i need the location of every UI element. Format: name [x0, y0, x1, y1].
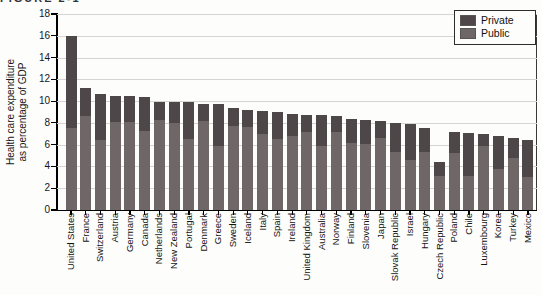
- bar-iceland: [242, 110, 253, 210]
- y-tick-10: [51, 101, 56, 102]
- bar-united-kingdom: [301, 115, 312, 210]
- bar-public-segment: [183, 139, 194, 210]
- bar-public-segment: [522, 177, 533, 210]
- bar-private-segment: [228, 108, 239, 127]
- y-tick-0: [51, 209, 56, 210]
- bar-private-segment: [508, 138, 519, 158]
- bar-austria: [110, 96, 121, 210]
- bar-public-segment: [124, 122, 135, 210]
- bar-finland: [346, 119, 357, 210]
- bar-private-segment: [346, 119, 357, 143]
- y-tick-label-14: 14: [22, 53, 50, 63]
- bar-public-segment: [478, 146, 489, 210]
- y-tick-label-6: 6: [22, 140, 50, 150]
- bar-private-segment: [124, 96, 135, 122]
- bar-sweden: [228, 108, 239, 210]
- bar-private-segment: [360, 120, 371, 144]
- x-tick-label-germany: Germany: [124, 213, 136, 291]
- x-tick-label-turkey: Turkey: [507, 213, 519, 291]
- bar-public-segment: [301, 132, 312, 210]
- bar-public-segment: [80, 116, 91, 210]
- x-tick-label-new-zealand: New Zealand: [168, 213, 180, 291]
- y-tick-label-12: 12: [22, 74, 50, 84]
- bar-mexico: [522, 140, 533, 210]
- y-tick-12: [51, 79, 56, 80]
- y-tick-4: [51, 166, 56, 167]
- x-tick-label-united-states: United States: [65, 213, 77, 291]
- bar-netherlands: [154, 102, 165, 210]
- bar-private-segment: [390, 123, 401, 152]
- bar-chile: [463, 133, 474, 210]
- x-tick-label-greece: Greece: [212, 213, 224, 291]
- bar-public-segment: [95, 140, 106, 210]
- bar-private-segment: [183, 102, 194, 139]
- bar-public-segment: [405, 160, 416, 210]
- legend-swatch-public: [460, 28, 476, 39]
- bar-united-states: [66, 36, 77, 210]
- bar-private-segment: [169, 102, 180, 123]
- x-tick-label-france: France: [80, 213, 92, 291]
- y-tick-18: [51, 13, 56, 14]
- bar-public-segment: [360, 144, 371, 210]
- legend-label-public: Public: [481, 28, 510, 39]
- bar-slovak-republic: [390, 123, 401, 210]
- y-tick-14: [51, 57, 56, 58]
- bar-norway: [331, 116, 342, 210]
- y-tick-8: [51, 122, 56, 123]
- bar-israel: [405, 124, 416, 210]
- bar-private-segment: [213, 104, 224, 145]
- y-tick-label-18: 18: [22, 9, 50, 19]
- y-tick-2: [51, 188, 56, 189]
- bar-private-segment: [242, 110, 253, 127]
- legend-item-public: Public: [460, 27, 535, 40]
- gridline-14: [57, 58, 537, 59]
- bar-public-segment: [316, 146, 327, 210]
- bar-greece: [213, 104, 224, 210]
- x-tick-label-austria: Austria: [109, 213, 121, 291]
- y-tick-label-10: 10: [22, 96, 50, 106]
- bar-private-segment: [375, 121, 386, 138]
- x-tick-label-italy: Italy: [257, 213, 269, 291]
- bar-private-segment: [449, 132, 460, 154]
- bar-public-segment: [390, 152, 401, 210]
- y-tick-label-16: 16: [22, 31, 50, 41]
- x-tick-label-hungary: Hungary: [419, 213, 431, 291]
- bar-public-segment: [331, 132, 342, 210]
- y-tick-label-0: 0: [22, 205, 50, 215]
- bar-public-segment: [242, 127, 253, 210]
- bar-public-segment: [463, 176, 474, 210]
- bar-switzerland: [95, 94, 106, 211]
- bar-japan: [375, 121, 386, 210]
- bar-private-segment: [478, 134, 489, 146]
- x-tick-label-czech-republic: Czech Republic: [434, 213, 446, 291]
- x-tick-label-luxembourg: Luxembourg: [478, 213, 490, 291]
- bar-private-segment: [154, 102, 165, 119]
- bar-private-segment: [198, 104, 209, 120]
- x-tick-label-mexico: Mexico: [522, 213, 534, 291]
- bar-private-segment: [301, 115, 312, 131]
- bar-new-zealand: [169, 102, 180, 210]
- figure-caption-clipped: FIGURE 2-1: [0, 0, 220, 4]
- bar-private-segment: [66, 36, 77, 129]
- y-axis-title: Health care expenditure as percentage of…: [5, 14, 29, 210]
- legend-swatch-private: [460, 15, 476, 26]
- bar-public-segment: [287, 136, 298, 210]
- x-tick-label-switzerland: Switzerland: [94, 213, 106, 291]
- bar-turkey: [508, 138, 519, 210]
- y-tick-label-2: 2: [22, 183, 50, 193]
- x-tick-label-slovenia: Slovenia: [360, 213, 372, 291]
- bar-italy: [257, 111, 268, 210]
- x-tick-label-united-kingdom: United Kingdom: [301, 213, 313, 291]
- bar-private-segment: [419, 128, 430, 152]
- bar-poland: [449, 132, 460, 210]
- y-tick-label-8: 8: [22, 118, 50, 128]
- bar-slovenia: [360, 120, 371, 210]
- bar-public-segment: [272, 139, 283, 210]
- bar-private-segment: [405, 124, 416, 160]
- bar-hungary: [419, 128, 430, 210]
- bar-korea: [493, 136, 504, 210]
- x-tick-label-poland: Poland: [448, 213, 460, 291]
- bar-public-segment: [257, 134, 268, 210]
- bar-public-segment: [508, 158, 519, 210]
- x-tick-label-spain: Spain: [271, 213, 283, 291]
